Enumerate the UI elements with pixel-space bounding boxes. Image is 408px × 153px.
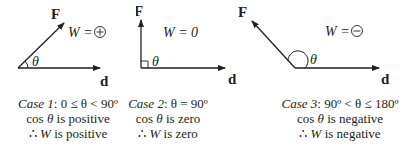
force-vector bbox=[252, 21, 295, 68]
angle-arc bbox=[288, 51, 308, 68]
angle-label: θ bbox=[32, 54, 39, 69]
conclusion-text: is positive bbox=[51, 126, 107, 141]
case-1-vector-diagram: F d θ W = bbox=[0, 0, 136, 95]
conclusion-text: is zero bbox=[160, 126, 198, 141]
case-2-caption: Case 2: θ = 90º cos θ is zero ∴ W is zer… bbox=[100, 96, 236, 141]
case-condition: : 90º < θ ≤ 180º bbox=[317, 96, 398, 111]
work-label: W = bbox=[325, 24, 350, 39]
case-label: Case 2 bbox=[128, 96, 164, 111]
work-label: W = 0 bbox=[163, 25, 198, 40]
therefore-symbol: ∴ bbox=[29, 126, 40, 141]
cos-sign-text: is zero bbox=[163, 111, 201, 126]
work-variable: W bbox=[311, 126, 322, 141]
force-label: F bbox=[136, 3, 143, 19]
therefore-symbol: ∴ bbox=[138, 126, 149, 141]
cos-text: cos bbox=[297, 111, 318, 126]
work-label: W = bbox=[68, 25, 93, 40]
cos-text: cos bbox=[26, 111, 47, 126]
case-3-panel: F d θ W = Case 3: 90º < θ ≤ 180º cos θ i… bbox=[232, 0, 408, 153]
force-label: F bbox=[51, 6, 60, 22]
right-angle-marker bbox=[141, 61, 148, 68]
work-variable: W bbox=[40, 126, 51, 141]
displacement-label: d bbox=[381, 71, 390, 87]
case-condition: : θ = 90º bbox=[164, 96, 208, 111]
cos-sign-text: is negative bbox=[324, 111, 383, 126]
case-label: Case 1 bbox=[18, 96, 54, 111]
angle-arc bbox=[25, 61, 28, 68]
angle-label: θ bbox=[310, 52, 317, 67]
case-3-vector-diagram: F d θ W = bbox=[232, 0, 408, 95]
work-variable: W bbox=[149, 126, 160, 141]
force-label: F bbox=[238, 4, 247, 20]
displacement-label: d bbox=[100, 73, 109, 89]
cos-text: cos bbox=[136, 111, 157, 126]
case-label: Case 3 bbox=[282, 96, 318, 111]
angle-label: θ bbox=[152, 54, 159, 69]
case-3-caption: Case 3: 90º < θ ≤ 180º cos θ is negative… bbox=[252, 96, 408, 141]
conclusion-text: is negative bbox=[321, 126, 380, 141]
therefore-symbol: ∴ bbox=[299, 126, 310, 141]
